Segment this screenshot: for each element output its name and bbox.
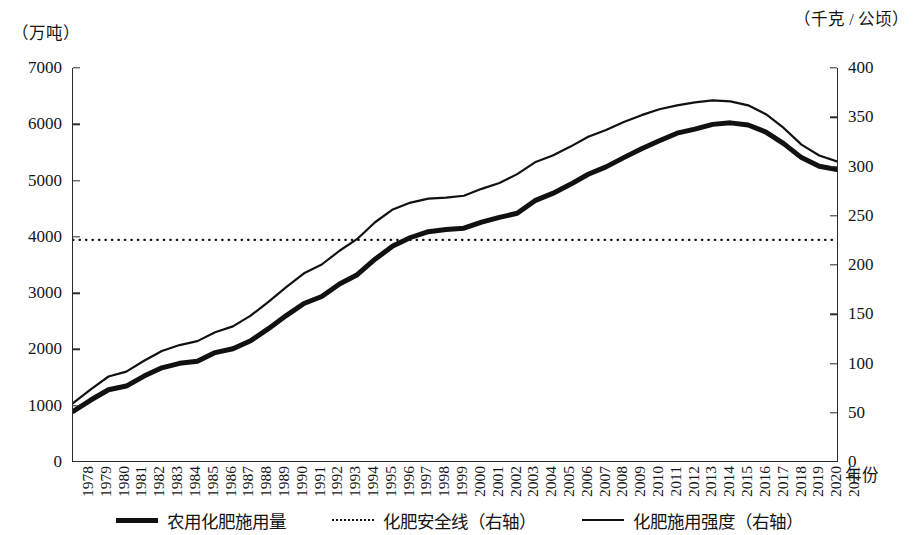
x-axis-tick-label: 2000 xyxy=(471,466,489,497)
legend-label: 化肥安全线（右轴） xyxy=(383,508,536,533)
left-axis-tick-mark xyxy=(73,236,80,237)
x-axis-tick-label: 1988 xyxy=(257,466,275,497)
x-axis-tick-label: 1979 xyxy=(97,466,115,497)
usage-line-series xyxy=(73,123,837,412)
left-axis-tick-label: 1000 xyxy=(28,396,73,416)
x-axis-tick-label: 1984 xyxy=(186,466,204,497)
right-axis-tick-mark xyxy=(830,363,837,364)
left-axis-tick-label: 3000 xyxy=(28,283,73,303)
x-axis-tick-label: 1985 xyxy=(204,466,222,497)
x-axis-tick-label: 1998 xyxy=(435,466,453,497)
x-axis-tick-label: 2017 xyxy=(774,466,792,497)
right-axis-unit-label: （千克 / 公顷） xyxy=(794,6,909,30)
left-axis-tick-mark xyxy=(73,405,80,406)
x-axis-tick-label: 2004 xyxy=(542,466,560,497)
x-axis-tick-label: 2001 xyxy=(489,466,507,497)
x-axis-tick-label: 1995 xyxy=(382,466,400,497)
x-axis-tick-label: 1996 xyxy=(400,466,418,497)
left-axis-tick-label: 2000 xyxy=(28,339,73,359)
left-axis-tick-mark xyxy=(73,67,80,68)
right-axis-tick-mark xyxy=(830,215,837,216)
plot-area: 01000200030004000500060007000 0501001502… xyxy=(72,68,838,462)
x-axis-tick-label: 2019 xyxy=(809,466,827,497)
x-axis-tick-label: 1992 xyxy=(328,466,346,497)
x-axis-tick-label: 1978 xyxy=(79,466,97,497)
legend-item: 化肥施用强度（右轴） xyxy=(582,508,803,533)
x-axis-title: 年份 xyxy=(845,462,879,486)
x-axis-tick-label: 2020 xyxy=(827,466,845,497)
legend-label: 化肥施用强度（右轴） xyxy=(633,508,803,533)
right-axis-tick-label: 200 xyxy=(837,255,874,275)
legend-item: 化肥安全线（右轴） xyxy=(332,508,536,533)
right-axis-tick-label: 50 xyxy=(837,403,865,423)
legend-item: 农用化肥施用量 xyxy=(116,508,286,533)
x-axis-tick-label: 2007 xyxy=(596,466,614,497)
x-axis-tick-label: 1991 xyxy=(311,466,329,497)
right-axis-tick-label: 400 xyxy=(837,58,874,78)
x-axis-tick-label: 1990 xyxy=(293,466,311,497)
x-axis-tick-label: 2015 xyxy=(738,466,756,497)
legend-label: 农用化肥施用量 xyxy=(167,508,286,533)
right-axis-tick-label: 350 xyxy=(837,107,874,127)
x-axis-tick-label: 1997 xyxy=(417,466,435,497)
x-axis-tick-label: 2011 xyxy=(667,466,685,496)
left-axis-tick-label: 7000 xyxy=(28,58,73,78)
right-axis-tick-label: 100 xyxy=(837,354,874,374)
x-axis-tick-label: 1981 xyxy=(132,466,150,497)
x-axis-tick-label: 2016 xyxy=(756,466,774,497)
x-axis-tick-label: 2002 xyxy=(507,466,525,497)
legend-swatch-thin-icon xyxy=(582,519,624,521)
left-axis-tick-mark xyxy=(73,124,80,125)
x-axis-tick-label: 1989 xyxy=(275,466,293,497)
x-axis-tick-label: 1983 xyxy=(168,466,186,497)
right-axis-tick-mark xyxy=(830,117,837,118)
x-axis-tick-label: 1980 xyxy=(115,466,133,497)
x-axis-tick-label: 2012 xyxy=(685,466,703,497)
x-axis-tick-label: 2018 xyxy=(792,466,810,497)
x-axis-tick-label: 1994 xyxy=(364,466,382,497)
right-axis-tick-label: 150 xyxy=(837,304,874,324)
chart-legend: 农用化肥施用量化肥安全线（右轴）化肥施用强度（右轴） xyxy=(0,505,919,535)
legend-swatch-dotted-icon xyxy=(332,519,374,521)
left-axis-unit-label: （万吨） xyxy=(12,20,80,44)
x-axis-tick-label: 2006 xyxy=(578,466,596,497)
left-axis-tick-mark xyxy=(73,180,80,181)
x-axis-tick-label: 2010 xyxy=(649,466,667,497)
x-axis-tick-label: 2003 xyxy=(524,466,542,497)
left-axis-tick-mark xyxy=(73,292,80,293)
left-axis-tick-mark xyxy=(73,349,80,350)
left-axis-tick-label: 5000 xyxy=(28,171,73,191)
x-axis-tick-label: 2008 xyxy=(613,466,631,497)
x-axis-tick-label: 2009 xyxy=(631,466,649,497)
x-axis-tick-label: 1986 xyxy=(222,466,240,497)
right-axis-tick-label: 300 xyxy=(837,157,874,177)
right-axis-tick-mark xyxy=(830,264,837,265)
x-axis-tick-label: 1993 xyxy=(346,466,364,497)
x-axis-tick-label: 1982 xyxy=(150,466,168,497)
left-axis-tick-label: 0 xyxy=(54,452,74,472)
x-axis-tick-label: 1987 xyxy=(239,466,257,497)
x-axis-tick-label: 2014 xyxy=(720,466,738,497)
right-axis-tick-mark xyxy=(830,166,837,167)
x-axis-tick-label: 2005 xyxy=(560,466,578,497)
left-axis-tick-label: 6000 xyxy=(28,114,73,134)
legend-swatch-thick-icon xyxy=(116,518,158,523)
right-axis-tick-mark xyxy=(830,314,837,315)
intensity-line-series xyxy=(73,100,837,403)
left-axis-tick-label: 4000 xyxy=(28,227,73,247)
fertilizer-use-chart-figure: （万吨） （千克 / 公顷） 0100020003000400050006000… xyxy=(0,0,919,535)
right-axis-tick-label: 250 xyxy=(837,206,874,226)
x-axis-tick-label: 2013 xyxy=(702,466,720,497)
right-axis-tick-mark xyxy=(830,412,837,413)
x-axis-tick-label: 1999 xyxy=(453,466,471,497)
right-axis-tick-mark xyxy=(830,67,837,68)
chart-lines-svg xyxy=(73,68,837,461)
